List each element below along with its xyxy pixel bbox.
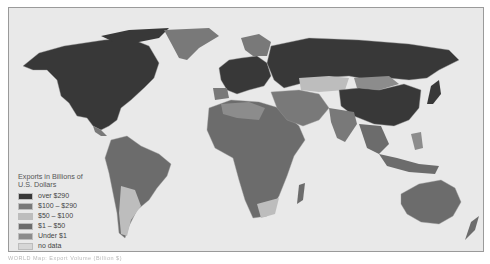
region-madagascar [297,183,305,204]
region-australia [401,180,461,224]
legend-swatch [18,193,33,200]
legend-swatch [18,223,33,230]
region-japan [427,80,441,104]
legend-swatch [18,213,33,220]
region-arctic-islands [101,28,169,42]
region-south-america [105,136,171,238]
legend-label: over $290 [38,192,69,200]
legend-item-100-290: $100 – $290 [18,201,98,211]
legend-item-1-50: $1 – $50 [18,221,98,231]
legend-label: Under $1 [38,232,67,240]
legend-item-50-100: $50 – $100 [18,211,98,221]
region-greenland [164,28,219,60]
legend-label: $100 – $290 [38,202,77,210]
legend-label: $50 – $100 [38,212,73,220]
legend-swatch [18,233,33,240]
region-india [329,108,357,142]
legend-label: no data [38,242,61,250]
region-new-zealand [465,216,479,240]
map-frame: Exports in Billions of U.S. Dollars over… [8,7,484,252]
legend-item-no-data: no data [18,241,98,251]
region-scandinavia [241,34,271,56]
region-philippines [411,132,423,150]
legend-item-under-1: Under $1 [18,231,98,241]
map-legend: Exports in Billions of U.S. Dollars over… [18,173,98,251]
legend-swatch [18,203,33,210]
legend-item-over-290: over $290 [18,191,98,201]
region-southeast-asia [359,124,389,154]
region-north-america [23,38,159,130]
map-caption: WORLD Map: Export Volume (Billion $) [8,255,122,261]
region-iberia [213,88,229,100]
legend-label: $1 – $50 [38,222,65,230]
legend-title: Exports in Billions of U.S. Dollars [18,173,98,189]
legend-swatch [18,243,33,250]
region-indonesia [379,154,439,174]
